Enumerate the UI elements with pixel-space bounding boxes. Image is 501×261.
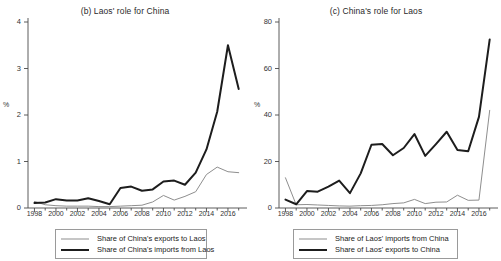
panel-china-role-for-laos: (c) China's role for Laos % 020406080 19…: [251, 0, 501, 261]
legend-line-swatch-icon: [61, 234, 89, 243]
plot-area-c: [251, 0, 501, 224]
y-tick-label: 0: [1, 203, 21, 212]
legend-item: Share of China's exports to Laos: [61, 233, 200, 244]
panel-laos-role-for-china: (b) Laos' role for China % 01234 1998200…: [0, 0, 250, 261]
plot-svg-c: [251, 0, 501, 224]
plot-svg-b: [0, 0, 250, 224]
legend-line-swatch-icon: [61, 245, 89, 254]
legend-b: Share of China's exports to LaosShare of…: [55, 229, 207, 259]
legend-c: Share of Laos' imports from ChinaShare o…: [293, 229, 458, 259]
plot-area-b: [0, 0, 250, 224]
y-axis-label-b: %: [3, 101, 9, 108]
y-tick-label: 40: [252, 110, 272, 119]
y-tick-label: 80: [252, 17, 272, 26]
series-line-1: [285, 39, 489, 204]
series-line-1: [34, 45, 238, 204]
legend-item-label: Share of Laos' exports to China: [335, 245, 440, 254]
x-tick-label: 2016: [215, 210, 241, 217]
legend-item: Share of Laos' exports to China: [299, 244, 451, 255]
y-tick-label: 0: [252, 203, 272, 212]
legend-item-label: Share of Laos' imports from China: [335, 234, 449, 243]
legend-line-swatch-icon: [299, 245, 327, 254]
legend-item-label: Share of China's imports from Laos: [97, 245, 214, 254]
x-tick-label: 2016: [466, 210, 492, 217]
legend-item-label: Share of China's exports to Laos: [97, 234, 206, 243]
legend-item: Share of Laos' imports from China: [299, 233, 451, 244]
y-tick-label: 20: [252, 157, 272, 166]
y-tick-label: 1: [1, 157, 21, 166]
y-tick-label: 3: [1, 64, 21, 73]
figure-two-panel-line-charts: (b) Laos' role for China % 01234 1998200…: [0, 0, 501, 261]
y-tick-label: 60: [252, 64, 272, 73]
y-tick-label: 4: [1, 17, 21, 26]
legend-line-swatch-icon: [299, 234, 327, 243]
y-tick-label: 2: [1, 110, 21, 119]
legend-item: Share of China's imports from Laos: [61, 244, 200, 255]
y-axis-label-c: %: [254, 101, 260, 108]
